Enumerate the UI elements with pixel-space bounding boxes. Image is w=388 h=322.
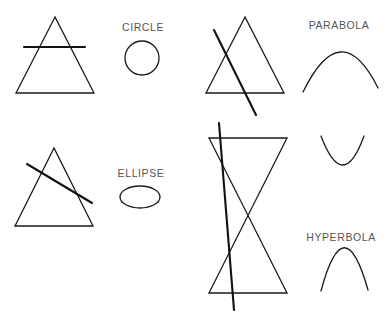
conic-sections-diagram: CIRCLE ELLIPSE PARABOLA HYPERBOLA — [0, 0, 388, 322]
circle-shape — [125, 41, 159, 75]
hyperbola-upper-branch — [321, 136, 364, 165]
cone-triangle — [206, 17, 284, 93]
hyperbola-section-figure — [209, 123, 368, 310]
parabola-label: PARABOLA — [309, 20, 370, 31]
cone-triangle — [15, 148, 93, 226]
double-cone — [209, 138, 287, 293]
parabola-section-figure — [206, 17, 378, 115]
circle-label: CIRCLE — [122, 22, 164, 33]
parabola-curve — [303, 52, 378, 92]
ellipse-shape — [120, 186, 160, 208]
hyperbola-label: HYPERBOLA — [306, 232, 376, 243]
cutting-plane-line — [214, 30, 256, 115]
ellipse-label: ELLIPSE — [118, 168, 165, 179]
cone-triangle — [16, 17, 94, 93]
cutting-plane-line — [219, 123, 234, 310]
ellipse-section-figure — [15, 148, 160, 226]
diagram-canvas — [0, 0, 388, 322]
hyperbola-lower-branch — [321, 248, 368, 291]
